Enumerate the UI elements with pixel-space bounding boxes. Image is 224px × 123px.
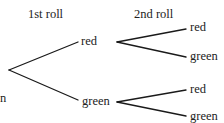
node-2-green-red: red	[190, 83, 206, 96]
node-2-green-green: green	[190, 110, 218, 123]
node-2-red-red: red	[190, 21, 206, 34]
edge-red-to-green	[117, 42, 186, 57]
edge-root-to-red	[9, 42, 78, 70]
edge-green-to-red	[117, 90, 186, 102]
edge-root-to-green	[9, 70, 78, 100]
cut-off-label: n	[0, 92, 6, 105]
header-second-roll: 2nd roll	[134, 8, 173, 21]
header-first-roll: 1st roll	[28, 8, 63, 21]
tree-diagram: 1st roll 2nd roll n red green red green …	[0, 0, 224, 123]
node-2-red-green: green	[190, 50, 218, 63]
node-1-green: green	[82, 95, 110, 108]
edge-green-to-green	[117, 102, 186, 116]
node-1-red: red	[81, 35, 97, 48]
edge-red-to-red	[117, 29, 186, 42]
